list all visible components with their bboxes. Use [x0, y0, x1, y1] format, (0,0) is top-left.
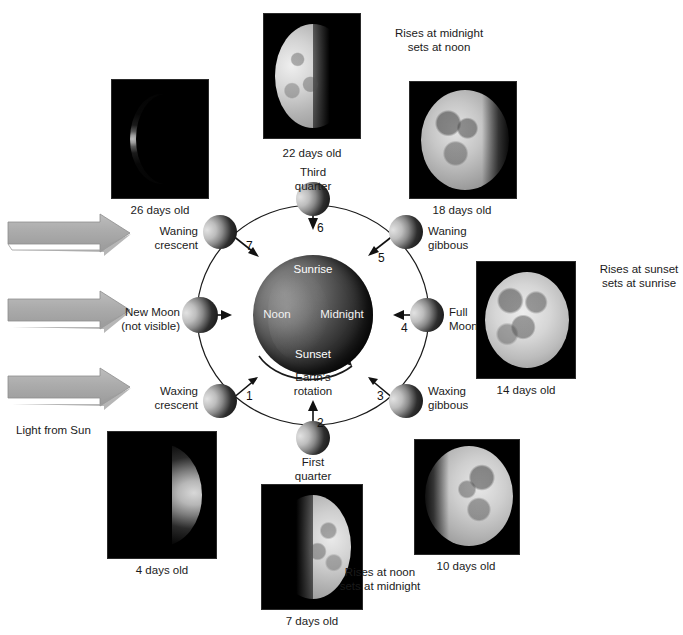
phase-label-waning-gibbous: Waning gibbous — [428, 225, 528, 252]
photo-moon-10-days — [415, 440, 519, 554]
moon-disc-4-shadow — [110, 444, 172, 546]
photo-moon-14-days — [477, 262, 575, 378]
earth-label-midnight: Midnight — [311, 308, 373, 320]
orbit-number-7: 7 — [246, 240, 253, 252]
earth-rotation-label: Earth's rotation — [263, 371, 363, 398]
phase-label-first-quarter: First quarter — [263, 456, 363, 483]
phase-label-waning-crescent: Waning crescent — [98, 225, 198, 252]
moon-disc-14-maria — [489, 276, 565, 364]
photo-moon-18-days — [410, 82, 516, 198]
earth-label-noon: Noon — [254, 308, 300, 320]
caption-moon-18-days: 18 days old — [412, 204, 512, 218]
moon-disc-26-shadow — [136, 94, 196, 184]
orbit-moon-3-waxing-gibbous[interactable] — [389, 384, 423, 418]
orbit-number-4: 4 — [401, 322, 408, 334]
caption-moon-22-days: 22 days old — [262, 147, 362, 161]
earth-label-sunrise: Sunrise — [253, 263, 373, 275]
caption-moon-14-days: 14 days old — [476, 384, 576, 398]
moon-disc-22-craters — [278, 36, 334, 114]
annotation-third-quarter-rise-set: Rises at midnight sets at noon — [364, 27, 514, 54]
orbit-moon-1-waxing-crescent[interactable] — [203, 384, 237, 418]
orbit-moon-new[interactable] — [182, 297, 218, 333]
orbit-number-3: 3 — [377, 390, 384, 402]
orbit-moon-7-waning-crescent[interactable] — [203, 215, 237, 249]
orbit-moon-5-waning-gibbous[interactable] — [389, 215, 423, 249]
moon-disc-10-maria — [433, 454, 507, 538]
phase-label-third-quarter: Third quarter — [263, 166, 363, 193]
moon-disc-18-maria — [426, 98, 500, 182]
phase-label-waxing-crescent: Waxing crescent — [98, 385, 198, 412]
earth-label-sunset: Sunset — [253, 348, 373, 360]
orbit-moon-4-full-moon[interactable] — [410, 298, 444, 332]
caption-moon-26-days: 26 days old — [110, 204, 210, 218]
phase-label-new-moon: New Moon (not visible) — [56, 306, 180, 333]
photo-moon-22-days — [264, 14, 360, 138]
caption-moon-4-days: 4 days old — [108, 564, 216, 578]
orbit-number-6: 6 — [317, 222, 324, 234]
annotation-first-quarter-rise-set: Rises at noon sets at midnight — [300, 566, 460, 593]
photo-moon-26-days — [112, 80, 208, 198]
orbit-number-2: 2 — [317, 417, 324, 429]
photo-moon-4-days — [108, 432, 216, 558]
orbit-number-5: 5 — [378, 252, 385, 264]
caption-moon-7-days: 7 days old — [262, 615, 362, 629]
orbit-moon-2-first-quarter[interactable] — [296, 421, 330, 455]
annotation-full-moon-rise-set: Rises at sunset sets at sunrise — [584, 263, 683, 290]
orbit-number-1: 1 — [246, 390, 253, 402]
